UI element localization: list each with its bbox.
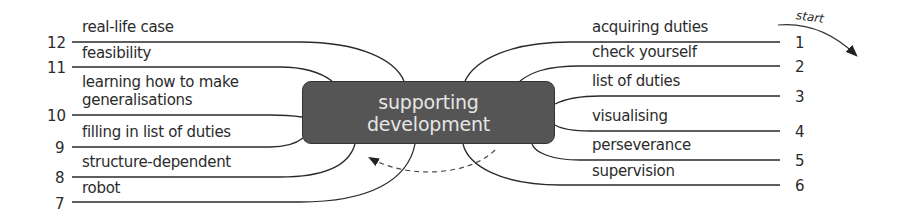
central-node-line1: supporting [378,91,478,113]
branch-line-3 [555,96,780,104]
curved-arrow-icon [778,25,856,55]
branch-label-8: structure-dependent [82,154,231,170]
branch-label-11: feasibility [82,45,151,61]
branch-label-1: acquiring duties [592,19,708,35]
branch-number-10: 10 [47,108,66,124]
branch-label-4: visualising [592,108,668,124]
branch-label-10-line2: generalisations [82,92,192,108]
branch-number-11: 11 [47,60,66,76]
branch-number-8: 8 [55,170,65,186]
branch-label-5: perseverance [592,137,691,153]
branch-number-3: 3 [795,89,805,105]
branch-label-3: list of duties [592,73,680,89]
branch-number-4: 4 [795,124,805,140]
dashed-arrow-icon [370,150,495,172]
branch-label-9: filling in list of duties [82,124,231,140]
branch-number-7: 7 [55,196,65,212]
branch-number-12: 12 [47,35,66,51]
central-node-line2: development [367,113,490,135]
branch-number-5: 5 [795,153,805,169]
branch-label-7: robot [82,180,120,196]
branch-label-10-line1: learning how to make [82,74,239,90]
branch-number-2: 2 [795,59,805,75]
branch-number-1: 1 [795,35,805,51]
branch-label-6: supervision [592,163,675,179]
central-node: supporting development [302,81,555,144]
mind-map-diagram: supporting development start acquiring d… [0,0,904,215]
branch-line-10 [72,115,302,117]
branch-line-4 [555,125,780,131]
branch-number-9: 9 [55,140,65,156]
branch-label-2: check yourself [592,44,697,60]
branch-label-12: real-life case [82,19,174,35]
branch-number-6: 6 [795,178,805,194]
